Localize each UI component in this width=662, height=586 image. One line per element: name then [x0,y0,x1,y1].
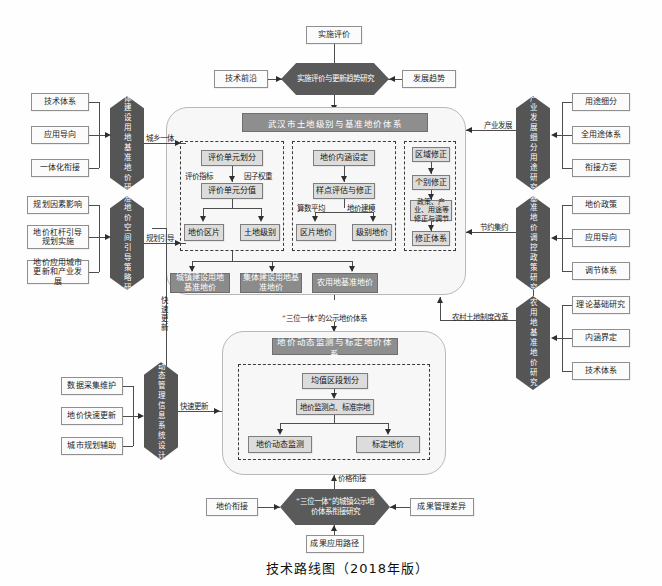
hex-label: 基准地价调控政策研究 [529,194,538,293]
arrowhead [389,76,395,82]
connector [89,135,99,136]
node-zone-land-price: 区片地价 [296,224,336,241]
connector [99,205,100,272]
output-collective-construction-land-benchmark-price: 集体建设用地基准地价 [240,273,302,293]
arrowhead [200,216,206,222]
hex-label: 地价动态管理信息系统设计研究 [157,342,166,480]
arrowhead [258,216,264,222]
node-land-price-zone: 地价区片 [184,224,224,241]
node-application-orientation-left: 应用导向 [31,126,89,144]
arrowhead [390,504,396,510]
arrowhead [189,266,195,272]
hex-label: 农用地基准地价研究 [529,298,538,387]
node-correction-system: 修正体系 [412,231,450,246]
arrowhead [551,335,557,341]
node-implementation-evaluation: 实施评价 [306,26,362,44]
node-price-application-urban-renewal: 地价应用城市更新和产业发展 [27,260,89,284]
node-technical-system-left: 技术体系 [31,93,89,111]
node-regulation-system: 调节体系 [572,262,630,280]
node-theoretical-basis-research: 理论基础研究 [572,296,630,314]
edge-label-rural-land-reform: 农村土地制度改革 [452,311,508,322]
node-connection-scheme: 衔接方案 [572,159,630,177]
node-fast-land-price-update: 地价快速更新 [61,407,123,425]
arrowhead [105,132,111,138]
hex-agricultural-land-benchmark-price-research: 农用地基准地价研究 [516,296,550,390]
edge-label-price-linkage: 价格衔接 [338,472,366,483]
arrowhead [551,132,557,138]
node-evaluation-unit-score: 评价单元分值 [201,183,263,199]
node-monitor-points-standard-parcels: 地价监测点、标准宗地 [296,399,374,415]
connector [315,212,373,213]
technical-roadmap-diagram: 实施评价 实施评价与更新趋势研究 技术前沿 发展趋势 武汉市土地级别与基准地价体… [0,0,662,586]
connector [89,272,99,273]
connector [123,446,133,447]
hex-label: 集体建设用地基准地价研究 [123,84,132,203]
connector [562,238,572,239]
arrowhead [138,413,144,419]
arrowhead [274,504,280,510]
node-technical-system-right: 技术体系 [572,362,630,380]
hex-label: 产业发展细分用途研究 [529,94,538,193]
node-planning-factor-influence: 规划因素影响 [27,196,89,214]
edge-label-three-in-one-public-price-system: “三位一体”的公示地价体系 [282,312,367,323]
output-urban-construction-land-benchmark-price: 城镇建设用地基准地价 [170,273,230,293]
connector [562,135,572,136]
node-land-grade: 土地级别 [240,224,280,241]
edge-label-industry-development: 产业发展 [484,119,512,130]
arrowhead [341,176,347,182]
arrowhead [214,408,220,414]
arrowhead [551,235,557,241]
connector [466,232,516,233]
arrowhead [331,475,337,481]
connector [562,371,572,372]
node-connotation-definition: 内涵界定 [572,329,630,347]
connector [562,305,572,306]
hex-collective-construction-land-research: 集体建设用地基准地价研究 [110,96,144,190]
node-land-price-connection: 地价衔接 [206,498,258,516]
connector [89,205,99,206]
node-standard-land-price: 标定地价 [356,436,420,453]
edge-label-factor-weight: 因子权重 [244,170,272,181]
hex-industry-development-use-subdivision-research: 产业发展细分用途研究 [516,96,550,190]
node-policy-industry-use-correction: 政策、产业、用途等修正与调节 [410,200,452,221]
node-data-collection-maintenance: 数据采集维护 [61,377,123,395]
connector [89,237,99,238]
connector [280,423,388,424]
arrowhead [349,266,355,272]
node-achievement-management-difference: 成果管理差异 [410,498,474,516]
arrowhead [370,216,376,222]
arrowhead [277,429,283,435]
node-sample-evaluation-correction: 样点评估与修正 [313,183,375,199]
edge-label-fast-update-vertical: 快速更新 [158,296,169,332]
connector [152,228,166,229]
main-system-title: 武汉市土地级别与基准地价体系 [242,113,428,132]
node-full-use-system: 全用途体系 [572,126,630,144]
node-individual-correction: 个别修正 [412,175,450,190]
connector [89,102,99,103]
connector [562,305,563,371]
arrowhead [331,525,337,531]
arrowhead [269,266,275,272]
node-regional-correction: 区域修正 [412,147,450,162]
connector [562,102,563,168]
arrowhead [385,429,391,435]
connector [344,199,345,208]
connector [232,199,233,208]
connector [562,271,572,272]
node-uniform-zone-division: 均值区段划分 [302,373,368,389]
node-application-orientation-right: 应用导向 [572,229,630,247]
connector [123,416,133,417]
connector [562,338,572,339]
connector [533,290,534,296]
arrowhead [437,297,443,303]
connector [562,168,572,169]
node-urban-planning-assistance: 城市规划辅助 [61,437,123,455]
connector [203,208,261,209]
figure-caption: 技术路线图（2018年版） [266,558,429,577]
node-development-trend: 发展趋势 [402,70,456,88]
node-land-price-dynamic-monitoring: 地价动态监测 [248,436,312,453]
hex-label: 基准地价空间引导策略研究 [123,184,132,303]
arrowhead [229,176,235,182]
arrowhead [466,229,472,235]
node-technology-frontier: 技术前沿 [214,70,268,88]
